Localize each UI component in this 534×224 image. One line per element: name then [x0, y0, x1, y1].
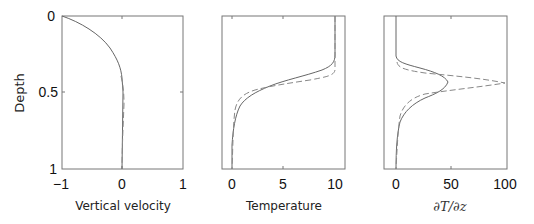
xtick-label: 0 — [118, 176, 126, 192]
ytick-label: 0 — [47, 8, 55, 24]
axes-box — [384, 16, 507, 169]
y-axis-label: Depth — [12, 73, 27, 113]
xtick-label: −1 — [53, 176, 69, 192]
xtick-label: 100 — [493, 176, 517, 192]
xtick-label: 0 — [392, 176, 400, 192]
panel-vertical-velocity: 0 0.5 1 −1 0 1 Vertical velocity Depth — [12, 8, 187, 213]
xtick-label: 50 — [443, 176, 459, 192]
series-solid — [62, 16, 123, 169]
xtick-label: 10 — [327, 176, 343, 192]
xtick-label: 0 — [228, 176, 236, 192]
x-axis-label: Vertical velocity — [75, 199, 171, 213]
series-dashed — [396, 62, 505, 169]
axes-box — [222, 16, 345, 169]
series-solid — [396, 16, 448, 169]
ytick-label: 0.5 — [39, 84, 59, 100]
ytick-label: 1 — [49, 161, 57, 177]
panel-temperature: 0 5 10 Temperature — [222, 16, 345, 213]
xtick-label: 1 — [179, 176, 187, 192]
x-axis-label: Temperature — [245, 199, 322, 213]
xtick-label: 5 — [279, 176, 287, 192]
figure: 0 0.5 1 −1 0 1 Vertical velocity Depth 0… — [0, 0, 534, 224]
series-dashed — [232, 16, 335, 169]
panel-temperature-gradient: 0 50 100 ∂T/∂z — [384, 16, 517, 214]
x-axis-label: ∂T/∂z — [433, 199, 466, 214]
